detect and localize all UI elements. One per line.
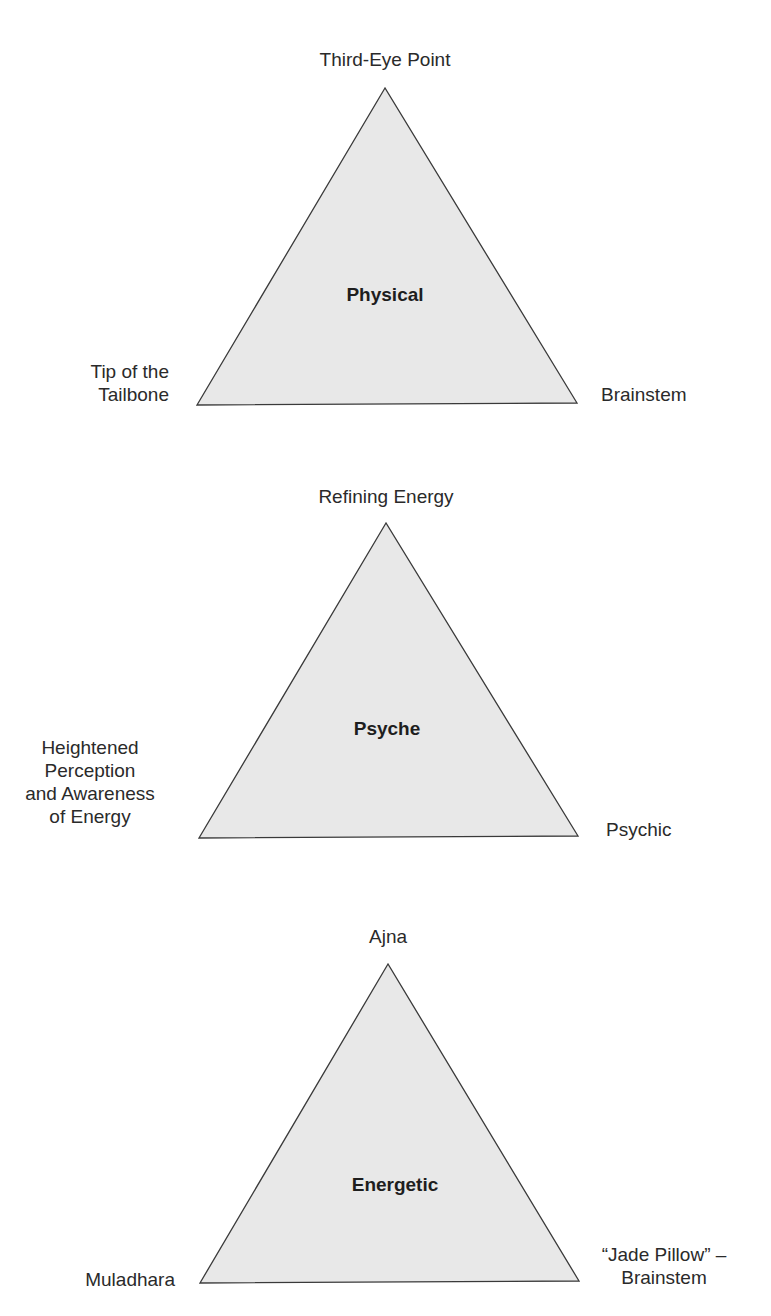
- energetic-right-label-line-1: “Jade Pillow” –: [602, 1243, 727, 1266]
- psyche-right-label-line-1: Psychic: [606, 818, 671, 841]
- physical-left-label-line-2: Tailbone: [90, 383, 169, 406]
- physical-left-label: Tip of the Tailbone: [90, 360, 169, 406]
- energetic-right-label: “Jade Pillow” – Brainstem: [602, 1243, 727, 1289]
- energetic-left-label-line-1: Muladhara: [85, 1268, 175, 1291]
- physical-right-label-line-1: Brainstem: [601, 383, 687, 406]
- psyche-left-label: Heightened Perception and Awareness of E…: [25, 736, 155, 828]
- energetic-top-label: Ajna: [369, 925, 407, 948]
- psyche-center-label: Psyche: [354, 718, 421, 740]
- physical-left-label-line-1: Tip of the: [90, 360, 169, 383]
- triangle-energetic: [200, 964, 579, 1283]
- psyche-left-label-line-3: and Awareness: [25, 782, 155, 805]
- psyche-top-label: Refining Energy: [318, 485, 453, 508]
- energetic-center-label: Energetic: [352, 1174, 439, 1196]
- energetic-right-label-line-2: Brainstem: [602, 1266, 727, 1289]
- triangles-diagram: [0, 0, 771, 1316]
- triangle-psyche: [199, 523, 578, 838]
- psyche-left-label-line-1: Heightened: [25, 736, 155, 759]
- physical-right-label: Brainstem: [601, 383, 687, 406]
- physical-center-label: Physical: [346, 284, 423, 306]
- physical-top-label: Third-Eye Point: [320, 48, 451, 71]
- triangle-physical: [197, 88, 577, 405]
- psyche-left-label-line-4: of Energy: [25, 805, 155, 828]
- psyche-left-label-line-2: Perception: [25, 759, 155, 782]
- psyche-right-label: Psychic: [606, 818, 671, 841]
- energetic-left-label: Muladhara: [85, 1268, 175, 1291]
